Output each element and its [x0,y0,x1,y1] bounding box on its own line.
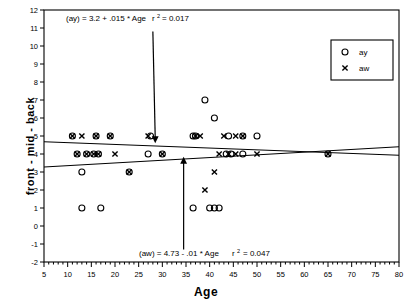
aw-annotation-arrowhead [180,157,187,164]
ay-annotation-r-exponent: 2 [157,13,160,19]
aw-annotation-r-value: = 0.047 [243,249,270,258]
x-tick-label: 80 [395,270,403,279]
y-tick-label: 11 [30,24,38,33]
data-point-aw [112,151,117,156]
data-point-aw [70,133,75,138]
legend-label-aw: aw [359,64,369,73]
ay-annotation-r: r [152,14,155,23]
data-point-ay [79,205,85,211]
data-point-ay [254,133,260,139]
y-tick-label: -2 [31,258,38,267]
data-point-ay [145,151,151,157]
x-tick-label: 45 [229,270,237,279]
y-tick-label: 10 [30,42,38,51]
x-tick-label: 10 [63,270,71,279]
x-tick-label: 15 [87,270,95,279]
aw-annotation-text: (aw) = 4.73 - .01 * Age [139,249,219,258]
x-axis-title: Age [0,285,412,299]
data-point-ay [202,97,208,103]
data-point-aw [160,151,165,156]
data-point-ay [190,205,196,211]
data-point-aw [233,133,238,138]
x-tick-label: 65 [324,270,332,279]
legend-label-ay: ay [359,48,367,57]
x-tick-label: 35 [182,270,190,279]
x-tick-label: 40 [205,270,213,279]
x-tick-label: 60 [300,270,308,279]
x-tick-label: 5 [42,270,46,279]
ay-annotation-text: (ay) = 3.2 + .015 * Age [66,14,147,23]
y-tick-label: 12 [30,6,38,15]
ay-annotation-r-value: = 0.017 [162,14,189,23]
data-point-aw [75,151,80,156]
aw-annotation-r: r [232,249,235,258]
x-tick-label: 55 [276,270,284,279]
x-tick-label: 70 [347,270,355,279]
aw-annotation-r-exponent: 2 [237,248,240,254]
y-tick-label: -1 [31,240,38,249]
data-point-aw [108,133,113,138]
ay-annotation-arrowhead [152,136,159,143]
data-point-aw [240,133,245,138]
data-point-ay [79,169,85,175]
x-tick-label: 75 [371,270,379,279]
x-tick-label: 20 [111,270,119,279]
y-axis-title: front - mid - back [24,56,36,236]
data-point-aw [79,133,84,138]
data-point-aw [127,169,132,174]
ay-annotation-arrow-line [153,32,155,139]
x-tick-label: 50 [253,270,261,279]
data-point-aw [217,151,222,156]
x-tick-label: 30 [158,270,166,279]
data-point-aw [212,169,217,174]
data-point-aw [84,151,89,156]
data-point-ay [98,205,104,211]
data-point-ay [211,115,217,121]
data-point-aw [93,133,98,138]
data-point-aw [254,151,259,156]
scatter-plot-figure: -2-1012345678910111251015202530354045505… [0,0,412,306]
legend-box [331,40,393,80]
data-point-aw [202,187,207,192]
plot-canvas: -2-1012345678910111251015202530354045505… [0,0,412,306]
x-tick-label: 25 [134,270,142,279]
